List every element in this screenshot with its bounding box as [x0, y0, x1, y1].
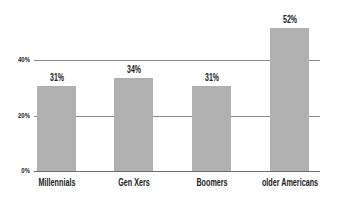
bar-chart: 40% 20% 0% 31% 34% 31% 52% Millennials G… [0, 0, 337, 199]
bar-millennials [37, 86, 76, 171]
category-label: Boomers [180, 177, 245, 188]
y-tick-label: 20% [8, 111, 31, 120]
value-label: 31% [43, 72, 71, 83]
bar-gen-xers [114, 78, 153, 171]
value-label: 52% [276, 14, 304, 25]
bar-boomers [192, 86, 231, 171]
x-axis-baseline [34, 171, 320, 172]
bar-older-americans [270, 28, 309, 171]
category-label: older Americans [258, 177, 323, 188]
category-label: Millennials [25, 177, 90, 188]
value-label: 34% [120, 64, 148, 75]
category-label: Gen Xers [102, 177, 167, 188]
y-tick-label: 40% [8, 55, 31, 64]
value-label: 31% [198, 72, 226, 83]
y-tick-label: 0% [8, 166, 31, 175]
